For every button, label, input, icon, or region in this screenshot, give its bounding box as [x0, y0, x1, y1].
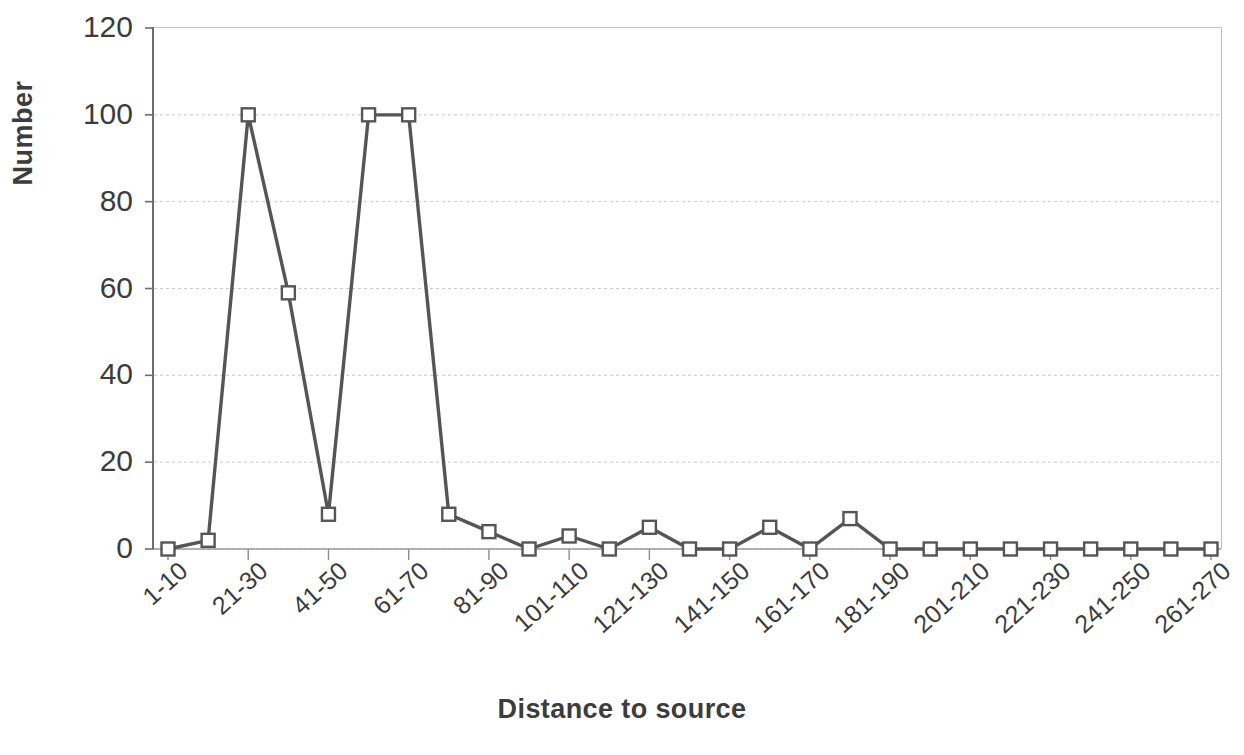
x-axis-title: Distance to source	[0, 694, 1244, 725]
x-axis-tick-label-text: 41-50	[287, 556, 354, 620]
y-axis-tick-label: 40	[43, 357, 133, 391]
y-axis-tick-label: 100	[43, 97, 133, 131]
gridlines	[154, 115, 1221, 549]
y-axis-tick-label: 80	[43, 184, 133, 218]
y-axis-title: Number	[8, 38, 48, 228]
y-axis-tick-label: 60	[43, 271, 133, 305]
data-series-line	[168, 115, 1211, 549]
x-axis-tick-labels: 1-1021-3041-5061-7081-90101-110121-13014…	[0, 556, 1244, 686]
y-axis-tick-label: 20	[43, 444, 133, 478]
x-axis-tick-label-text: 81-90	[447, 556, 514, 620]
x-axis-tick-label-text: 1-10	[137, 556, 194, 611]
x-axis-tick-label-text: 61-70	[367, 556, 434, 620]
y-axis-tick-labels: 020406080100120	[55, 0, 145, 560]
chart-plot-svg	[154, 28, 1221, 549]
y-axis-tick-marks	[145, 28, 154, 549]
chart-figure: Number 020406080100120 1-1021-3041-5061-…	[0, 0, 1244, 755]
x-axis-tick-label-text: 21-30	[207, 556, 274, 620]
plot-area	[152, 27, 1222, 549]
x-axis-tick-label-text: 261-270	[1149, 556, 1237, 639]
data-point-markers	[162, 108, 1218, 555]
y-axis-tick-label: 120	[43, 10, 133, 44]
